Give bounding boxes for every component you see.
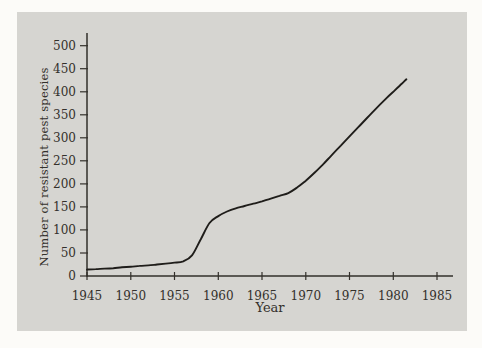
axes	[87, 33, 453, 276]
y-tick-label: 400	[53, 85, 76, 99]
y-tick-label: 250	[53, 154, 76, 168]
x-tick-label: 1975	[334, 289, 365, 303]
y-tick-label: 150	[53, 200, 76, 214]
y-tick-label: 500	[53, 39, 76, 53]
line-chart: 0501001502002503003504004505001945195019…	[17, 12, 467, 331]
figure-page: 0501001502002503003504004505001945195019…	[0, 0, 482, 348]
y-tick-label: 350	[53, 108, 76, 122]
x-tick-label: 1960	[203, 289, 234, 303]
y-tick-label: 200	[53, 177, 76, 191]
y-tick-label: 300	[53, 131, 76, 145]
x-tick-label: 1955	[159, 289, 190, 303]
x-tick-label: 1945	[72, 289, 103, 303]
y-tick-label: 0	[68, 269, 76, 283]
chart-panel: 0501001502002503003504004505001945195019…	[17, 12, 467, 331]
x-tick-label: 1970	[291, 289, 322, 303]
y-tick-label: 100	[53, 223, 76, 237]
x-axis-title: Year	[255, 300, 284, 315]
y-axis-title: Number of resistant pest species	[37, 67, 51, 266]
data-series-curve	[87, 79, 406, 269]
y-tick-label: 450	[53, 62, 76, 76]
x-tick-label: 1950	[116, 289, 147, 303]
x-tick-label: 1985	[422, 289, 453, 303]
x-tick-label: 1980	[378, 289, 409, 303]
y-tick-label: 50	[61, 246, 76, 260]
